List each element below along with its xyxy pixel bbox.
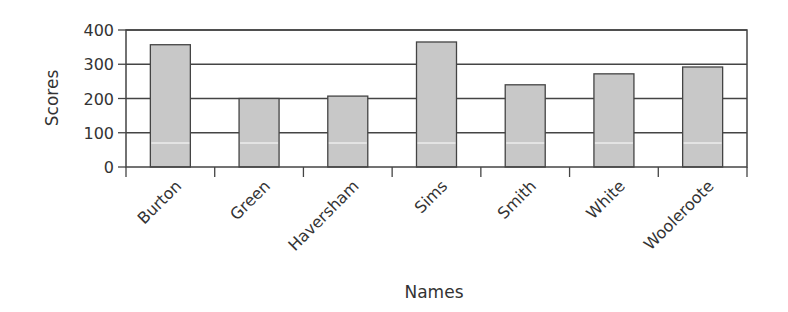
bars	[150, 42, 722, 167]
x-axis-ticks: BurtonGreenHavershamSimsSmithWhiteWooler…	[126, 167, 747, 255]
x-tick-label: Wooleroote	[640, 176, 718, 254]
bar-smith	[505, 85, 545, 167]
y-tick-label: 200	[83, 90, 114, 109]
y-tick-label: 100	[83, 124, 114, 143]
y-tick-label: 400	[83, 21, 114, 40]
bar-chart: 0100200300400 BurtonGreenHavershamSimsSm…	[0, 0, 788, 312]
x-tick-label: Haversham	[284, 176, 362, 254]
x-tick-label: Green	[226, 176, 274, 224]
bar-green	[239, 99, 279, 168]
x-tick-label: Burton	[134, 176, 186, 228]
x-tick-label: Sims	[411, 176, 452, 217]
x-axis-title: Names	[404, 282, 463, 302]
y-tick-label: 300	[83, 55, 114, 74]
bar-haversham	[328, 96, 368, 167]
bar-burton	[150, 45, 190, 167]
bar-white	[594, 74, 634, 167]
y-axis-title: Scores	[42, 70, 62, 127]
x-tick-label: Smith	[494, 176, 540, 222]
x-tick-label: White	[582, 176, 628, 222]
bar-wooleroote	[683, 67, 723, 167]
bar-sims	[417, 42, 457, 167]
y-axis-ticks: 0100200300400	[83, 21, 126, 177]
y-tick-label: 0	[104, 158, 114, 177]
